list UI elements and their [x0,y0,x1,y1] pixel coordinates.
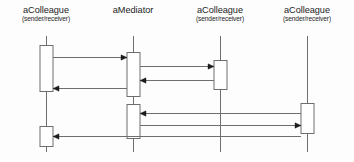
activation-box-act-m-a [127,53,140,97]
message-msg-1 [53,55,127,60]
message-msg-7 [53,134,301,139]
message-arrowhead-msg-5 [140,111,146,116]
message-arrowhead-msg-3 [140,78,146,83]
message-msg-2 [140,64,214,69]
message-msg-3 [140,78,214,83]
message-msg-4 [53,86,127,91]
message-arrows-layer [53,55,301,139]
activation-box-act-m-b [127,105,140,139]
message-arrowhead-msg-4 [53,86,59,91]
activation-box-act-c1-b [40,127,53,147]
activation-box-act-c3-a [301,104,314,134]
lifelines-layer [47,36,308,152]
activation-box-act-c1-a [40,46,53,92]
sequence-diagram: aColleague(sender/receiver)aMediatoraCol… [0,0,354,162]
message-arrowhead-msg-6 [295,123,301,128]
lifeline-role-colleague-1: (sender/receiver) [0,16,106,23]
message-arrowhead-msg-1 [121,55,127,60]
message-arrowhead-msg-7 [53,134,59,139]
activation-box-act-c2-a [214,61,227,90]
sequence-diagram-canvas [0,0,354,162]
lifeline-role-colleague-3: (sender/receiver) [247,16,354,23]
lifeline-label-colleague-3: aColleague(sender/receiver) [247,6,354,23]
activation-boxes-layer [40,46,314,147]
message-arrowhead-msg-2 [208,64,214,69]
